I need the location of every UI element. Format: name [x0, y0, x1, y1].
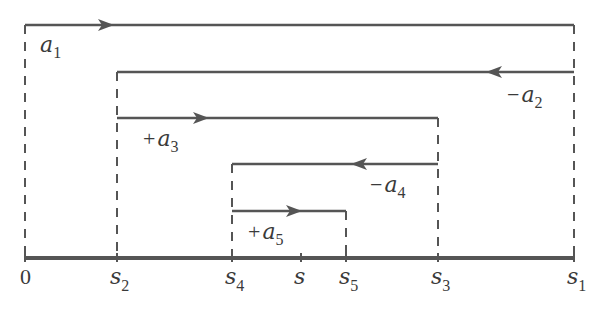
tick-label-s3: s3	[431, 264, 450, 294]
tick-label-s4: s4	[225, 264, 244, 294]
segment-a3	[117, 112, 438, 124]
segment-a1	[25, 19, 574, 31]
tick-label-s5: s5	[339, 264, 358, 294]
segment-label-a3: +a3	[143, 126, 179, 155]
number-line	[25, 253, 574, 262]
segment-label-a4: −a4	[370, 172, 406, 201]
segment-label-a1: a1	[40, 32, 61, 61]
segment-label-a2: −a2	[507, 82, 543, 111]
tick-label-s1: s1	[567, 264, 586, 294]
directed-segments	[25, 19, 574, 217]
segment-a2	[117, 66, 574, 78]
segment-a4	[232, 158, 438, 170]
tick-label-s: s	[294, 264, 305, 289]
dashed-verticals	[25, 25, 574, 258]
segment-a5	[232, 205, 346, 217]
segment-label-a5: +a5	[248, 219, 284, 248]
tick-label-zero: 0	[20, 264, 31, 289]
interval-diagram: a1−a2+a3−a4+a50s2s4ss5s3s1	[0, 0, 593, 309]
tick-label-s2: s2	[110, 264, 129, 294]
